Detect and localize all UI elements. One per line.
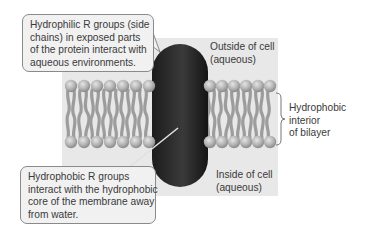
lipid-tails-right (207, 90, 269, 138)
callout-text-line: from water. (28, 209, 148, 222)
bilayer-bracket (276, 93, 285, 145)
label-line: Outside of cell (210, 41, 275, 54)
label-line: (aqueous) (216, 182, 273, 195)
hydrophilic-callout: Hydrophilic R groups (side chains) in ex… (22, 14, 154, 72)
callout-text-line: interact with the hydrophobic (28, 184, 148, 197)
outside-of-cell-label: Outside of cell (aqueous) (210, 41, 275, 66)
transmembrane-protein (152, 44, 208, 187)
callout-text-line: Hydrophobic R groups (28, 171, 148, 184)
label-line: of bilayer (289, 127, 346, 140)
callout-text-line: of the protein interact with (30, 44, 146, 57)
callout-text-line: core of the membrane away (28, 196, 148, 209)
label-line: Hydrophobic (289, 102, 346, 115)
callout-text-line: aqueous environments. (30, 57, 146, 70)
label-line: interior (289, 115, 346, 128)
lipid-tails-left (67, 90, 147, 138)
label-line: Inside of cell (216, 169, 273, 182)
label-line: (aqueous) (210, 54, 275, 67)
inside-of-cell-label: Inside of cell (aqueous) (216, 169, 273, 194)
callout-text-line: Hydrophilic R groups (side (30, 19, 146, 32)
callout-text-line: chains) in exposed parts (30, 32, 146, 45)
hydrophobic-interior-label: Hydrophobic interior of bilayer (289, 102, 346, 140)
hydrophobic-callout: Hydrophobic R groups interact with the h… (20, 166, 156, 224)
